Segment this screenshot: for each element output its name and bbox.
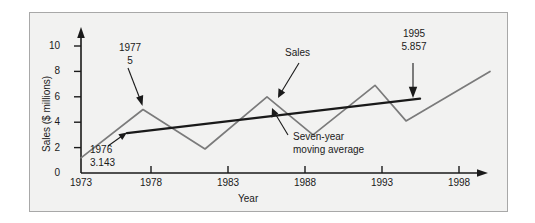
- x-axis-title: Year: [238, 193, 258, 205]
- annotation-arrow-1995: [409, 63, 417, 98]
- x-tick-label-1998: 1998: [439, 177, 479, 189]
- annotation-arrow-sales: [278, 63, 299, 98]
- y-axis-title: Sales ($ millions): [41, 76, 53, 152]
- figure-frame: 10 8 6 4 2 0 Sales ($ millions) 1973 197…: [29, 12, 508, 212]
- y-tick-label-10: 10: [44, 40, 60, 52]
- annotation-1976-value: 3.143: [90, 157, 115, 169]
- chart-screenshot: 10 8 6 4 2 0 Sales ($ millions) 1973 197…: [0, 0, 535, 223]
- plot-area: [30, 13, 507, 211]
- annotation-1995-year: 1995: [393, 28, 435, 40]
- x-tick-label-1978: 1978: [131, 177, 171, 189]
- annotation-moving-average-line1: Seven-year: [293, 131, 344, 143]
- annotation-arrow-1977: [128, 68, 143, 106]
- x-tick-label-1983: 1983: [208, 177, 248, 189]
- y-axis: [74, 27, 85, 173]
- x-tick-label-1988: 1988: [285, 177, 325, 189]
- annotation-sales-label: Sales: [285, 47, 310, 59]
- x-tick-label-1973: 1973: [61, 177, 101, 189]
- x-axis: [81, 166, 488, 177]
- annotation-moving-average-line2: moving average: [293, 144, 364, 156]
- annotation-1995-value: 5.857: [393, 41, 435, 53]
- annotation-1977-year: 1977: [110, 42, 150, 54]
- y-tick-label-8: 8: [44, 65, 60, 77]
- y-tick-label-0: 0: [44, 167, 60, 179]
- annotation-1976-year: 1976: [90, 144, 112, 156]
- x-tick-label-1993: 1993: [362, 177, 402, 189]
- annotation-1977-value: 5: [110, 55, 150, 67]
